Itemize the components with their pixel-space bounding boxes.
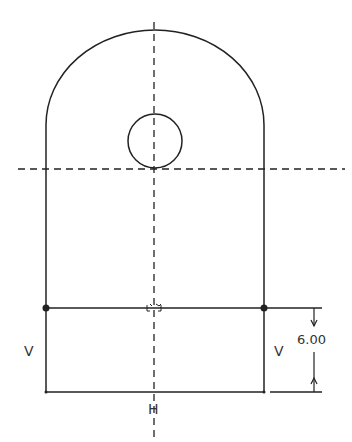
dimension-value[interactable]: 6.00: [297, 332, 326, 347]
sketch-canvas: 6.00 V V H: [0, 0, 352, 442]
constraint-left-vertical: V: [24, 343, 34, 359]
vertex-point-left[interactable]: [43, 305, 50, 312]
vertex-point-bottom-left[interactable]: [45, 391, 48, 394]
hole-circle: [128, 114, 182, 168]
vertex-point-right[interactable]: [261, 305, 268, 312]
vertex-point-bottom-right[interactable]: [263, 391, 266, 394]
constraint-bottom-horizontal: H: [148, 401, 159, 417]
constraint-right-vertical: V: [274, 343, 284, 359]
top-arc: [46, 30, 264, 125]
